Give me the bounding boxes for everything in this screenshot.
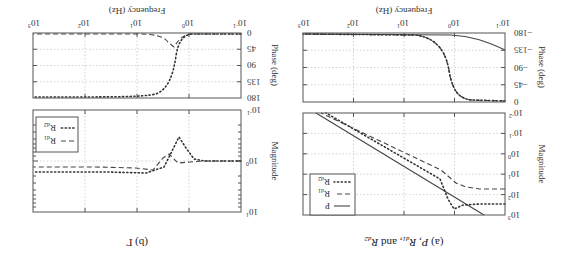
panel-a-phase-yticks: 0 −45 −90 −135 −180: [514, 28, 533, 107]
svg-text:100: 100: [448, 18, 460, 29]
svg-text:100: 100: [182, 18, 194, 29]
svg-text:101: 101: [246, 207, 258, 218]
svg-text:100: 100: [508, 149, 520, 160]
svg-text:45: 45: [247, 44, 257, 54]
legend-label-b-Rd1: R: [50, 136, 56, 146]
svg-text:102: 102: [78, 18, 90, 29]
svg-text:−90: −90: [514, 63, 529, 73]
svg-text:90: 90: [247, 60, 257, 70]
panel-b-legend: Rd1 Rd2: [36, 117, 78, 152]
panel-a: P Rd1 Rd2 103 102 101 100 10-1 10-2 Magn…: [298, 6, 547, 249]
panel-a-legend: P Rd1 Rd2: [310, 174, 355, 215]
svg-text:102: 102: [347, 18, 359, 29]
panel-b-phase-plot: 180 135 90 45 0 Phase (deg) 10-1 100 101…: [28, 6, 280, 103]
svg-text:−45: −45: [514, 80, 529, 90]
legend-label-P: P: [325, 201, 330, 211]
svg-text:100: 100: [246, 156, 258, 167]
svg-text:−180: −180: [514, 28, 533, 38]
svg-text:103: 103: [28, 18, 40, 29]
panel-a-phase-plot: 0 −45 −90 −135 −180 Phase (deg) 10-1 100…: [298, 6, 547, 107]
svg-text:103: 103: [508, 210, 520, 221]
figure-stage: P Rd1 Rd2 103 102 101 100 10-1 10-2 Magn…: [0, 0, 566, 261]
legend-label-b-Rd2: R: [50, 123, 56, 133]
bode-figure: P Rd1 Rd2 103 102 101 100 10-1 10-2 Magn…: [0, 0, 566, 261]
svg-text:0: 0: [247, 28, 252, 38]
panel-b-phase-ylabel: Phase (deg): [270, 44, 280, 86]
legend-label-Rd1: R: [324, 189, 330, 199]
panel-a-magnitude-plot: P Rd1 Rd2 103 102 101 100 10-1 10-2 Magn…: [303, 108, 547, 221]
panel-a-mag-ylabel: Magnitude: [537, 145, 547, 184]
panel-b-mag-ylabel: Magnitude: [270, 142, 280, 181]
panel-b-phase-yticks: 180 135 90 45 0: [247, 28, 261, 103]
svg-text:10-1: 10-1: [509, 128, 523, 139]
svg-text:101: 101: [397, 18, 409, 29]
svg-text:135: 135: [247, 77, 261, 87]
svg-text:101: 101: [508, 169, 520, 180]
svg-text:101: 101: [130, 18, 142, 29]
panel-b-caption: (b) Γ: [126, 236, 148, 249]
svg-text:103: 103: [298, 18, 310, 29]
panel-b-magnitude-plot: Rd1 Rd2 101 100 10-1 Magnitude: [33, 105, 280, 218]
svg-text:10-1: 10-1: [496, 18, 510, 29]
svg-text:102: 102: [508, 190, 520, 201]
svg-text:10-1: 10-1: [233, 18, 247, 29]
panel-a-xlabel: Frequency (Hz): [376, 6, 433, 16]
panel-a-xticks: 10-1 100 101 102 103: [298, 18, 510, 29]
panel-b-xticks: 10-1 100 101 102 103: [28, 18, 247, 29]
panel-a-mag-yticks: 103 102 101 100 10-1 10-2: [508, 108, 523, 221]
svg-text:0: 0: [514, 97, 519, 107]
panel-b: Rd1 Rd2 101 100 10-1 Magnitude: [28, 6, 280, 249]
legend-label-Rd2: R: [324, 177, 330, 187]
panel-b-mag-yticks: 101 100 10-1: [246, 105, 261, 218]
panel-a-caption: (a) P, Rd1, and Rd2: [364, 235, 443, 249]
panel-b-xlabel: Frequency (Hz): [109, 6, 166, 16]
panel-a-phase-ylabel: Phase (deg): [537, 46, 547, 88]
svg-text:10-2: 10-2: [509, 108, 523, 119]
svg-text:−135: −135: [514, 45, 533, 55]
svg-text:180: 180: [247, 93, 261, 103]
svg-text:10-1: 10-1: [247, 105, 261, 116]
